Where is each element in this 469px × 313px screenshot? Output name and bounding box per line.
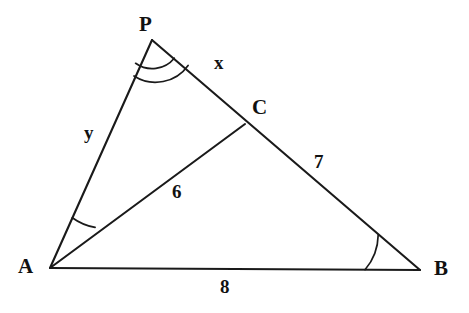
vertex-label-p: P (139, 14, 152, 35)
angle-mark-a-arc (72, 218, 95, 228)
vertex-label-a: A (18, 256, 33, 277)
geometry-figure: P A B C x y 6 7 8 (0, 0, 469, 313)
side-label-ac-6: 6 (172, 182, 182, 201)
vertex-label-c: C (252, 97, 267, 118)
segment-AC (50, 124, 245, 268)
side-label-ab-8: 8 (220, 277, 230, 296)
segment-PB (152, 40, 420, 270)
side-label-x: x (214, 53, 224, 72)
angle-mark-b-arc (365, 235, 378, 270)
geometry-canvas (0, 0, 469, 313)
vertex-label-b: B (434, 258, 448, 279)
side-label-cb-7: 7 (314, 152, 324, 171)
segment-PA (50, 40, 152, 268)
side-label-y: y (84, 123, 94, 142)
